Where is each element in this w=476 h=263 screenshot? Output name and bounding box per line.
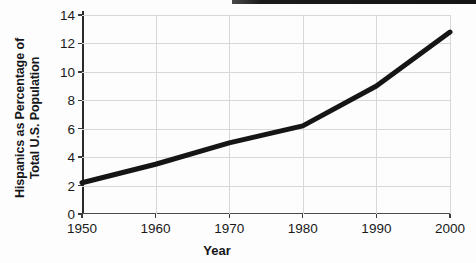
x-tick-mark-1990 [376,214,377,218]
y-tick-label-10: 10 [60,64,75,79]
y-tick-mark-6 [78,128,82,129]
gridline-h-14 [82,15,450,16]
series-layer [82,15,450,214]
x-tick-label-1990: 1990 [361,221,391,236]
gridline-h-6 [82,129,450,130]
gridline-h-10 [82,72,450,73]
gridline-v-2000 [450,15,451,214]
gridline-v-1960 [156,15,157,214]
gridline-v-1980 [303,15,304,214]
x-axis-title-text: Year [203,243,230,258]
x-tick-mark-1950 [81,214,82,218]
y-tick-mark-14 [78,14,82,15]
gridline-h-12 [82,43,450,44]
gridline-h-4 [82,157,450,158]
y-tick-label-12: 12 [60,36,75,51]
gridline-h-8 [82,100,450,101]
x-tick-mark-2000 [449,214,450,218]
gridline-v-1990 [376,15,377,214]
y-tick-mark-4 [78,156,82,157]
y-tick-label-14: 14 [60,8,75,23]
y-tick-label-4: 4 [67,150,75,165]
x-tick-mark-1980 [302,214,303,218]
x-tick-label-1980: 1980 [288,221,318,236]
y-axis-line [82,11,84,214]
y-tick-mark-12 [78,43,82,44]
series-line-hispanic-percentage [82,32,450,183]
x-axis-title: Year [0,243,476,258]
x-tick-mark-1960 [155,214,156,218]
x-tick-label-1960: 1960 [141,221,171,236]
x-tick-label-1970: 1970 [214,221,244,236]
y-tick-label-0: 0 [67,207,75,222]
y-tick-mark-2 [78,185,82,186]
y-tick-mark-10 [78,71,82,72]
y-tick-label-8: 8 [67,93,75,108]
y-tick-mark-8 [78,100,82,101]
y-axis-title-line-2: Total U.S. Population [28,57,43,180]
gridline-h-2 [82,186,450,187]
x-tick-label-1950: 1950 [67,221,97,236]
y-tick-label-2: 2 [67,178,75,193]
y-axis-title: Hispanics as Percentage of Total U.S. Po… [8,8,48,228]
chart-figure: Hispanics as Percentage of Total U.S. Po… [0,0,476,263]
x-axis-line [81,213,451,214]
x-tick-label-2000: 2000 [435,221,465,236]
x-tick-mark-1970 [229,214,230,218]
y-axis-title-line-1: Hispanics as Percentage of [13,38,28,198]
y-tick-label-6: 6 [67,121,75,136]
plot-area: 02468101214 195019601970198019902000 [82,15,450,214]
gridline-v-1970 [229,15,230,214]
scan-artifact-band [232,0,476,4]
